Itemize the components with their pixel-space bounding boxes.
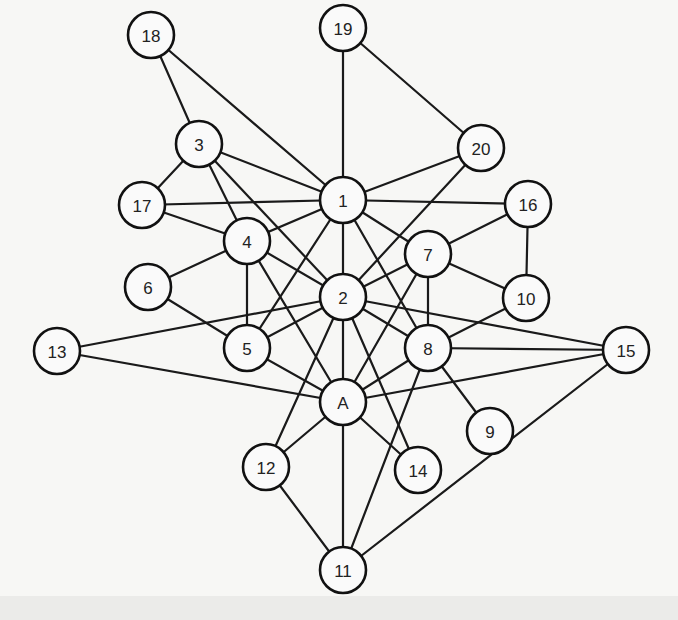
node-label: 8 [423, 340, 432, 359]
node-9: 9 [467, 408, 513, 454]
node-label: 7 [423, 246, 432, 265]
node-5: 5 [224, 325, 270, 371]
edge-20-2 [343, 148, 481, 297]
edge-19-20 [343, 28, 481, 148]
node-1: 1 [320, 177, 366, 223]
node-6: 6 [125, 264, 171, 310]
node-label: 9 [485, 423, 494, 442]
node-label: 5 [242, 340, 251, 359]
node-17: 17 [119, 182, 165, 228]
node-label: 4 [242, 233, 251, 252]
node-label: 18 [142, 27, 161, 46]
node-12: 12 [243, 444, 289, 490]
node-label: 10 [517, 290, 536, 309]
node-8: 8 [405, 325, 451, 371]
edge-1-16 [343, 200, 528, 204]
scan-artifact-strip [0, 596, 678, 620]
node-2: 2 [320, 274, 366, 320]
edge-18-1 [151, 35, 343, 200]
node-19: 19 [320, 5, 366, 51]
node-label: 20 [472, 140, 491, 159]
node-label: A [337, 394, 349, 413]
graph-svg: 181932011716476210135815A9121411 [0, 0, 678, 620]
node-layer: 181932011716476210135815A9121411 [34, 5, 649, 593]
node-15: 15 [603, 327, 649, 373]
node-label: 11 [334, 562, 352, 581]
node-7: 7 [405, 231, 451, 277]
node-A: A [320, 379, 366, 425]
node-label: 12 [257, 459, 276, 478]
edge-2-13 [57, 297, 343, 351]
node-label: 16 [519, 196, 538, 215]
edge-13-A [57, 351, 343, 402]
node-label: 15 [617, 342, 636, 361]
node-20: 20 [458, 125, 504, 171]
node-10: 10 [503, 275, 549, 321]
edge-8-15 [428, 348, 626, 350]
node-18: 18 [128, 12, 174, 58]
node-label: 17 [133, 197, 152, 216]
node-label: 2 [338, 289, 347, 308]
edge-17-1 [142, 200, 343, 205]
node-label: 3 [194, 136, 203, 155]
node-label: 6 [143, 279, 152, 298]
node-16: 16 [505, 181, 551, 227]
node-11: 11 [320, 547, 366, 593]
node-label: 13 [48, 343, 67, 362]
node-label: 1 [338, 192, 347, 211]
node-label: 14 [409, 462, 428, 481]
edge-3-2 [199, 144, 343, 297]
node-4: 4 [224, 218, 270, 264]
graph-diagram: 181932011716476210135815A9121411 [0, 0, 678, 620]
node-13: 13 [34, 328, 80, 374]
node-3: 3 [176, 121, 222, 167]
node-14: 14 [395, 447, 441, 493]
node-label: 19 [334, 20, 353, 39]
